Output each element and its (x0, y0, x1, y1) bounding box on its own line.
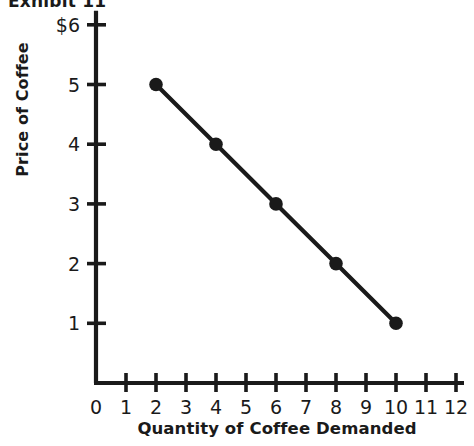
x-axis-tick-label: 12 (436, 398, 474, 417)
axes (94, 11, 464, 383)
y-axis-title: Price of Coffee (13, 30, 32, 190)
data-point-marker (209, 137, 223, 151)
y-axis-tick-label: 5 (22, 75, 80, 94)
chart-plot-area (0, 0, 474, 446)
exhibit-label: Exhibit 11 (8, 0, 106, 11)
data-point-marker (149, 78, 163, 92)
y-axis-tick-label: 4 (22, 135, 80, 154)
chart-figure: Exhibit 11 Price of Coffee Quantity of C… (0, 0, 474, 446)
data-point-marker (329, 257, 343, 271)
y-axis-tick-label: 1 (22, 314, 80, 333)
demand-curve (149, 78, 403, 330)
data-point-marker (389, 317, 403, 331)
x-axis-title: Quantity of Coffee Demanded (96, 419, 458, 438)
y-axis-tick-label: 3 (22, 194, 80, 213)
y-axis-tick-label: $6 (22, 15, 80, 34)
y-axis-tick-label: 2 (22, 254, 80, 273)
data-point-marker (269, 197, 283, 211)
